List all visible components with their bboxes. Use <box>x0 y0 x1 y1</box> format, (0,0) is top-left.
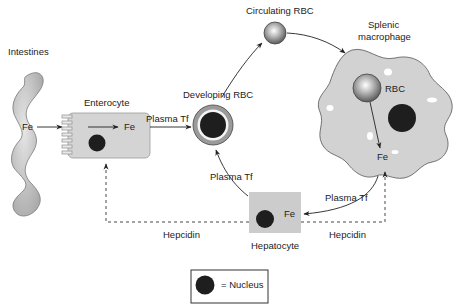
rbc-label: RBC <box>385 83 405 94</box>
fe-macrophage-label: Fe <box>377 151 388 162</box>
circulating-rbc <box>264 22 286 44</box>
hepatocyte-label: Hepatocyte <box>251 240 299 251</box>
hepcidin-label-right: Hepcidin <box>329 229 366 240</box>
legend-nucleus-label: = Nucleus <box>221 279 264 290</box>
legend: = Nucleus <box>191 270 268 303</box>
senescence-arrow <box>287 33 345 53</box>
splenic-macrophage-label-line2: macrophage <box>358 31 411 42</box>
enterocyte-label: Enterocyte <box>84 97 129 108</box>
hepcidin-label-left: Hepcidin <box>163 229 200 240</box>
intestines <box>12 73 44 216</box>
circulating-rbc-label: Circulating RBC <box>246 5 314 16</box>
hepatocyte-nucleus <box>256 210 274 228</box>
plasma-tf-label-3: Plasma Tf <box>210 171 253 182</box>
developing-rbc-label: Developing RBC <box>183 89 253 100</box>
intestines-label: Intestines <box>8 46 49 57</box>
phagocytosed-rbc <box>353 74 381 102</box>
splenic-macrophage-label-line1: Splenic <box>368 19 399 30</box>
macrophage-nucleus <box>388 104 416 132</box>
fe-intestine-label: Fe <box>22 121 33 132</box>
enterocyte <box>62 113 150 158</box>
fe-hepatocyte-label: Fe <box>284 208 295 219</box>
legend-nucleus-icon <box>196 276 215 295</box>
developing-rbc <box>193 105 233 145</box>
enterocyte-nucleus <box>89 135 106 152</box>
iron-cycle-diagram: Intestines Fe Enterocyte Fe Plasma Tf De… <box>0 0 465 306</box>
plasma-tf-label-1: Plasma Tf <box>146 113 189 124</box>
fe-enterocyte-label: Fe <box>124 121 135 132</box>
